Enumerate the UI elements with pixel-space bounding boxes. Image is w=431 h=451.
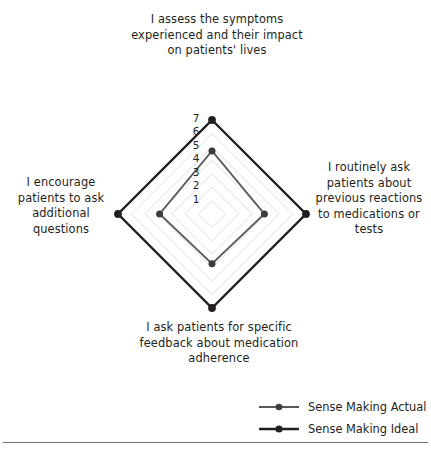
radar-grid-ring-4 bbox=[158, 160, 265, 267]
legend-item-ideal: Sense Making Ideal bbox=[258, 418, 430, 440]
radar-series-line bbox=[160, 151, 265, 264]
radar-grid-ring-6 bbox=[131, 133, 292, 294]
radar-plot-area: 1234567 bbox=[0, 0, 431, 451]
radar-chart-figure: I assess the symptoms experienced and th… bbox=[0, 0, 431, 451]
radar-data-point bbox=[209, 260, 216, 267]
radar-data-point bbox=[261, 211, 268, 218]
radial-tick-label-4: 4 bbox=[193, 152, 200, 164]
chart-legend: Sense Making Actual Sense Making Ideal bbox=[258, 396, 430, 440]
radial-tick-label-2: 2 bbox=[193, 179, 200, 191]
radial-tick-label-7: 7 bbox=[193, 112, 200, 124]
radial-tick-label-1: 1 bbox=[193, 193, 200, 205]
radar-data-point bbox=[209, 147, 216, 154]
radial-tick-label-3: 3 bbox=[193, 166, 200, 178]
legend-label-actual: Sense Making Actual bbox=[308, 400, 426, 414]
footer-divider bbox=[3, 442, 428, 443]
radar-grid-ring-1 bbox=[199, 201, 226, 228]
radar-data-point bbox=[208, 304, 216, 312]
radial-tick-labels: 1234567 bbox=[193, 112, 200, 205]
radar-series-ideal bbox=[114, 116, 310, 312]
radial-tick-label-5: 5 bbox=[193, 139, 200, 151]
radar-data-point bbox=[156, 211, 163, 218]
radar-series-layer bbox=[114, 116, 310, 312]
radar-series-actual bbox=[156, 147, 268, 267]
radial-tick-label-6: 6 bbox=[193, 125, 200, 137]
legend-item-actual: Sense Making Actual bbox=[258, 396, 430, 418]
legend-swatch-ideal bbox=[258, 422, 300, 436]
radar-data-point bbox=[302, 210, 310, 218]
legend-label-ideal: Sense Making Ideal bbox=[308, 422, 418, 436]
legend-swatch-actual bbox=[258, 400, 300, 414]
radar-data-point bbox=[114, 210, 122, 218]
radar-data-point bbox=[208, 116, 216, 124]
